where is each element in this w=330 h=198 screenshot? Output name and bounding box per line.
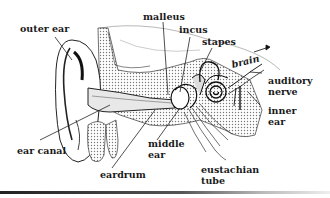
label-inner-ear-line1: inner (268, 106, 296, 116)
earlobe-tissue (88, 122, 107, 162)
label-incus: incus (179, 25, 208, 35)
label-ear-canal: ear canal (17, 146, 66, 156)
label-eustachian-tube-line1: eustachian (201, 165, 259, 175)
label-auditory-nerve-line1: auditory (268, 76, 313, 86)
label-stapes: stapes (202, 37, 236, 47)
label-middle-ear-line2: ear (148, 150, 165, 160)
label-inner-ear-line2: ear (268, 117, 285, 127)
label-eardrum: eardrum (100, 170, 146, 180)
label-outer-ear: outer ear (20, 24, 69, 34)
label-malleus: malleus (143, 12, 185, 22)
label-auditory-nerve-line2: nerve (268, 87, 298, 97)
bottom-border (0, 191, 330, 194)
temporal-bone (98, 28, 262, 137)
label-eustachian-tube-line2: tube (201, 176, 225, 186)
brain-arrow (254, 45, 270, 52)
label-middle-ear-line1: middle (148, 139, 185, 149)
